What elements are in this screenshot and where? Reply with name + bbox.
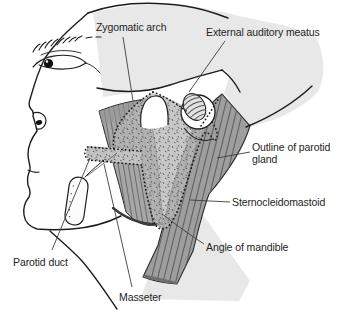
mandible-ramus-highlight [64,176,89,226]
label-outline-of-parotid-gland: Outline of parotid gland [252,141,340,165]
neck-front-line [50,231,117,309]
label-external-auditory-meatus: External auditory meatus [206,26,320,38]
eyebrow [33,36,101,52]
label-masseter: Masseter [119,291,161,303]
label-sternocleidomastoid: Sternocleidomastoid [232,196,325,208]
label-angle-of-mandible: Angle of mandible [206,241,288,253]
label-parotid-duct: Parotid duct [13,256,68,268]
anatomy-figure: Zygomatic arch External auditory meatus … [0,0,343,324]
label-zygomatic-arch: Zygomatic arch [96,21,166,33]
